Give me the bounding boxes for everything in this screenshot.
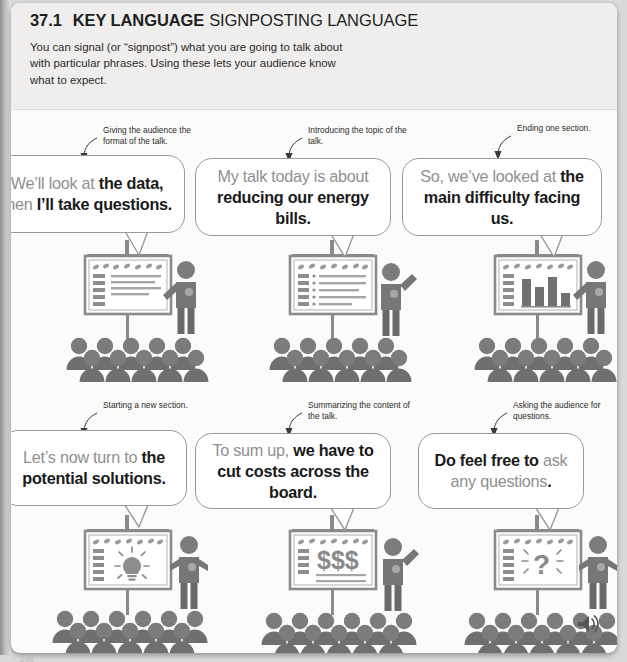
phrase-panel-2: My talk today is about reducing our ener… — [205, 166, 381, 229]
caption-panel-3: Ending one section. — [517, 123, 617, 134]
phrase-panel-1: We’ll look at the data, then I’ll take q… — [11, 173, 175, 215]
question-mark-symbol: ? — [533, 549, 550, 580]
phrase-panel-6: Do feel free to ask any questions. — [428, 450, 574, 492]
illustration-panel-4 — [53, 515, 209, 653]
book-spine — [0, 0, 11, 655]
speech-bubble-3: So, we’ve looked at the main difficulty … — [402, 158, 602, 236]
phrase-panel-5: To sum up, we have to cut costs across t… — [205, 440, 381, 503]
illustration-layer: $$$ — [11, 3, 617, 653]
phrase-panel-3: So, we’ve looked at the main difficulty … — [412, 166, 592, 229]
speech-bubble-6: Do feel free to ask any questions. — [418, 433, 584, 509]
illustration-panel-3 — [475, 240, 617, 382]
speech-bubble-1: We’ll look at the data, then I’ll take q… — [11, 155, 185, 233]
illustration-panel-2 — [270, 240, 418, 382]
phrase-segment-gray: then — [11, 195, 37, 213]
illustration-panel-5: $$$ — [262, 515, 420, 653]
phrase-segment-black: the data, — [99, 174, 163, 192]
speech-bubble-4: Let’s now turn to the potential solution… — [11, 430, 187, 506]
illustration-panel-1 — [67, 240, 209, 382]
phrase-segment-black: Do feel free to — [435, 451, 543, 469]
phrase-segment-gray: To sum up, — [212, 441, 293, 459]
caption-panel-2: Introducing the topic of the talk. — [308, 125, 408, 146]
phrase-panel-4: Let’s now turn to the potential solution… — [11, 447, 177, 489]
speech-bubble-2: My talk today is about reducing our ener… — [195, 158, 391, 236]
page-number: 205 — [20, 655, 35, 662]
phrase-segment-black: I’ll take questions. — [37, 195, 172, 213]
caption-panel-1: Giving the audience the format of the ta… — [103, 125, 213, 146]
phrase-segment-gray: My talk today is about — [217, 167, 368, 185]
phrase-segment-gray: We’ll look at — [11, 174, 99, 192]
caption-panel-5: Summarizing the content of the talk. — [308, 400, 418, 421]
phrase-segment-black: reducing our energy bills. — [217, 188, 369, 227]
textbook-page: 37.1KEY LANGUAGESIGNPOSTING LANGUAGE You… — [0, 0, 627, 662]
page-sheet: 37.1KEY LANGUAGESIGNPOSTING LANGUAGE You… — [11, 3, 617, 653]
phrase-segment-gray: So, we’ve looked at — [420, 167, 560, 185]
phrase-segment-gray: Let’s now turn to — [23, 448, 141, 466]
caption-panel-4: Starting a new section. — [103, 400, 191, 411]
money-symbols: $$$ — [317, 546, 359, 574]
caption-panel-6: Asking the audience for questions. — [513, 400, 615, 421]
phrase-segment-black: . — [547, 472, 551, 490]
speech-bubble-5: To sum up, we have to cut costs across t… — [195, 433, 391, 509]
